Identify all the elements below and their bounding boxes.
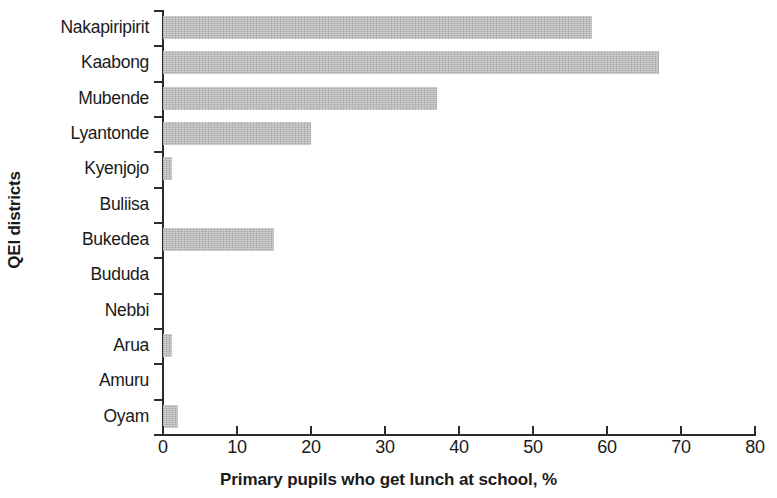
x-axis-tick <box>162 426 164 435</box>
x-tick-label: 80 <box>745 437 765 458</box>
y-tick-label: Amuru <box>22 363 157 398</box>
x-tick-label: 10 <box>227 437 247 458</box>
y-axis-tick <box>154 257 163 259</box>
y-axis-tick <box>154 81 163 83</box>
y-axis-tick <box>154 187 163 189</box>
x-axis-tick <box>310 426 312 435</box>
bar <box>163 16 592 39</box>
bar-row <box>163 222 755 257</box>
y-tick-label: Mubende <box>22 81 157 116</box>
x-tick-label: 0 <box>158 437 168 458</box>
y-axis-tick <box>154 151 163 153</box>
bar-row <box>163 328 755 363</box>
bar <box>163 157 172 180</box>
x-tick-label: 50 <box>523 437 543 458</box>
y-axis-tick <box>154 10 163 12</box>
x-tick-label: 30 <box>375 437 395 458</box>
x-axis-tick <box>236 426 238 435</box>
x-axis-tick <box>754 426 756 435</box>
bar-row <box>163 151 755 186</box>
x-axis-tick <box>458 426 460 435</box>
bar-row <box>163 257 755 292</box>
bar-row <box>163 187 755 222</box>
y-axis-tick <box>154 222 163 224</box>
y-tick-label: Buliisa <box>22 187 157 222</box>
bar-row <box>163 10 755 45</box>
bar-series <box>163 10 755 434</box>
y-tick-label: Bududa <box>22 257 157 292</box>
y-tick-label: Nakapiripirit <box>22 10 157 45</box>
bar-row <box>163 363 755 398</box>
bar <box>163 122 311 145</box>
y-axis-tick <box>154 293 163 295</box>
y-tick-label: Bukedea <box>22 222 157 257</box>
y-axis-tick-labels: Nakapiripirit Kaabong Mubende Lyantonde … <box>22 10 157 434</box>
y-axis-tick <box>154 363 163 365</box>
x-tick-label: 20 <box>301 437 321 458</box>
y-tick-label: Kyenjojo <box>22 151 157 186</box>
bar-row <box>163 116 755 151</box>
y-axis-tick <box>154 328 163 330</box>
x-axis-tick <box>384 426 386 435</box>
y-tick-label: Lyantonde <box>22 116 157 151</box>
bar <box>163 334 172 357</box>
bar-row <box>163 45 755 80</box>
bar <box>163 405 178 428</box>
y-tick-label: Nebbi <box>22 293 157 328</box>
y-tick-label: Kaabong <box>22 45 157 80</box>
bar <box>163 51 659 74</box>
x-axis-tick <box>606 426 608 435</box>
x-tick-label: 60 <box>597 437 617 458</box>
y-axis-tick <box>154 399 163 401</box>
x-axis-tick <box>680 426 682 435</box>
y-axis-tick <box>154 45 163 47</box>
y-tick-label: Arua <box>22 328 157 363</box>
bar-row <box>163 293 755 328</box>
y-axis-tick <box>154 116 163 118</box>
x-axis-tick <box>532 426 534 435</box>
bar <box>163 228 274 251</box>
x-tick-label: 40 <box>449 437 469 458</box>
bar-chart: QEI districts Nakapiripirit Kaabong Mube… <box>0 0 777 498</box>
plot-area <box>163 10 755 434</box>
bar-row <box>163 81 755 116</box>
x-tick-label: 70 <box>671 437 691 458</box>
y-tick-label: Oyam <box>22 399 157 434</box>
bar <box>163 87 437 110</box>
x-axis-title: Primary pupils who get lunch at school, … <box>0 470 777 490</box>
